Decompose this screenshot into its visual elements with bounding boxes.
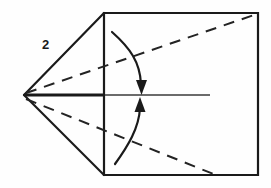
origami-diagram-canvas (0, 0, 271, 188)
step-number-label: 2 (42, 38, 49, 51)
origami-figure: 2 (0, 0, 271, 188)
